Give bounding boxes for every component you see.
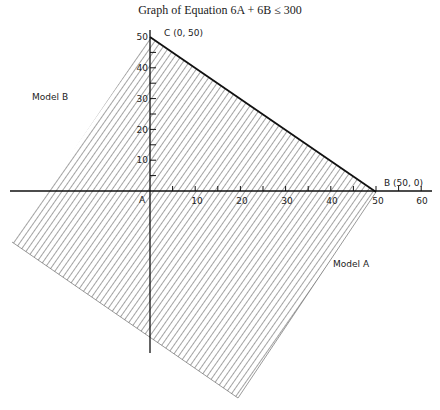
svg-text:20: 20 <box>137 125 149 135</box>
svg-text:50: 50 <box>372 196 384 206</box>
svg-text:30: 30 <box>281 196 293 206</box>
model-a-label: Model A <box>333 259 370 269</box>
chart-title: Graph of Equation 6A + 6B ≤ 300 <box>138 3 302 17</box>
point-b-label: B (50, 0) <box>384 178 423 188</box>
svg-text:40: 40 <box>326 196 338 206</box>
model-b-label: Model B <box>32 92 68 102</box>
constraint-graph: Graph of Equation 6A + 6B ≤ 300 10 20 30… <box>0 0 440 410</box>
point-c-label: C (0, 50) <box>164 28 203 38</box>
svg-text:60: 60 <box>416 196 428 206</box>
svg-text:10: 10 <box>137 155 149 165</box>
svg-text:10: 10 <box>191 196 203 206</box>
svg-text:20: 20 <box>236 196 248 206</box>
svg-text:40: 40 <box>137 63 149 73</box>
svg-text:50: 50 <box>137 32 149 42</box>
origin-label: A <box>139 195 146 205</box>
svg-text:30: 30 <box>137 94 149 104</box>
